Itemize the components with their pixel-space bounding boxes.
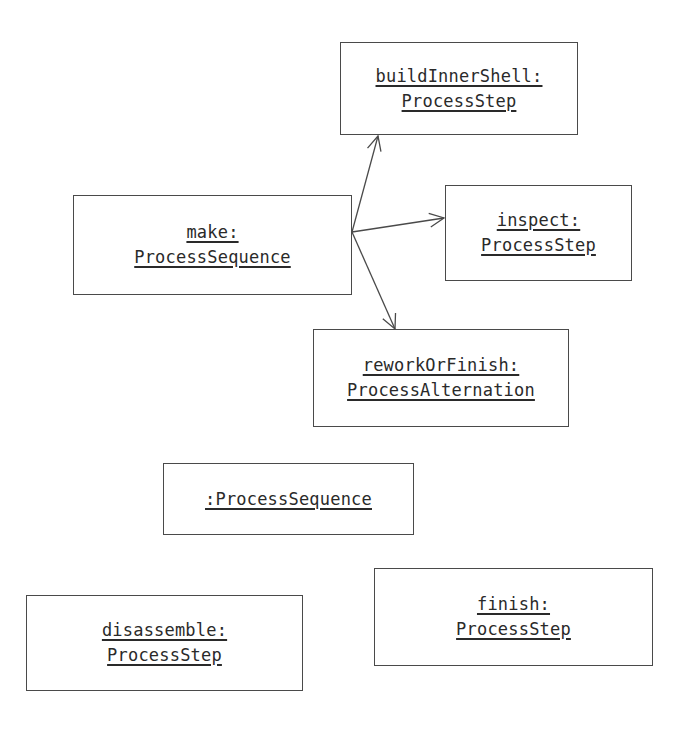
arrowhead-icon — [383, 313, 396, 329]
object-name: disassemble: — [102, 618, 227, 643]
object-class: ProcessStep — [481, 233, 596, 258]
object-name: buildInnerShell: — [376, 64, 543, 89]
link-make-buildInnerShell — [352, 136, 378, 232]
object-make[interactable]: make: ProcessSequence — [73, 195, 352, 295]
object-name: make: — [186, 220, 238, 245]
object-rework-or-finish[interactable]: reworkOrFinish: ProcessAlternation — [313, 329, 569, 427]
object-class: ProcessStep — [456, 617, 571, 642]
object-class: ProcessAlternation — [347, 378, 535, 403]
object-class: ProcessSequence — [134, 245, 291, 270]
object-finish[interactable]: finish: ProcessStep — [374, 568, 653, 666]
object-diagram: buildInnerShell: ProcessStep make: Proce… — [0, 0, 680, 731]
object-name: :ProcessSequence — [205, 487, 372, 512]
object-disassemble[interactable]: disassemble: ProcessStep — [26, 595, 303, 691]
object-name: inspect: — [497, 208, 580, 233]
object-name: reworkOrFinish: — [363, 353, 520, 378]
object-name: finish: — [477, 592, 550, 617]
link-make-reworkOrFinish — [352, 232, 395, 329]
link-make-inspect — [352, 218, 444, 232]
object-class: ProcessStep — [107, 643, 222, 668]
object-build-inner-shell[interactable]: buildInnerShell: ProcessStep — [340, 42, 578, 135]
arrowhead-icon — [429, 213, 444, 227]
object-inspect[interactable]: inspect: ProcessStep — [445, 185, 632, 281]
arrowhead-icon — [368, 136, 381, 152]
object-class: ProcessStep — [402, 89, 517, 114]
object-anonymous-process-sequence[interactable]: :ProcessSequence — [163, 463, 414, 535]
